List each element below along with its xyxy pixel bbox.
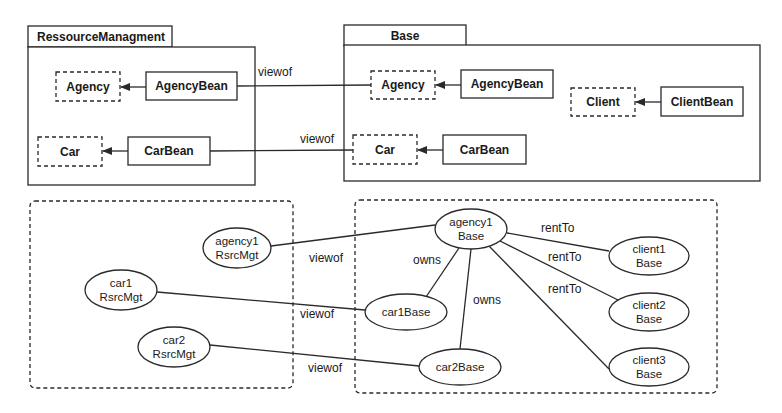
class-label: Client xyxy=(586,95,619,109)
class-client-interface: Client xyxy=(571,88,635,116)
package-title: Base xyxy=(391,29,420,43)
instance-car1-rsrcmgt: car1 RsrcMgt xyxy=(85,270,157,310)
instance-car2-base: car2Base xyxy=(419,349,501,385)
class-agency-interface: Agency xyxy=(56,72,120,101)
svg-text:car2Base: car2Base xyxy=(436,361,485,373)
package-base: Base Agency AgencyBean Client ClientBean… xyxy=(344,25,760,181)
label-rentto: rentTo xyxy=(548,250,582,264)
class-car-interface: Car xyxy=(38,137,102,166)
class-carbean: CarBean xyxy=(128,137,210,165)
instance-car1-base: car1Base xyxy=(365,294,447,330)
svg-text:client2: client2 xyxy=(632,299,665,311)
class-label: CarBean xyxy=(460,143,509,157)
class-carbean: CarBean xyxy=(443,135,526,164)
svg-text:client3: client3 xyxy=(632,354,665,366)
instance-car2-rsrcmgt: car2 RsrcMgt xyxy=(138,327,210,367)
class-label: CarBean xyxy=(144,144,193,158)
label-viewof: viewof xyxy=(309,251,344,265)
svg-text:Base: Base xyxy=(636,368,662,380)
label-viewof: viewof xyxy=(300,132,335,146)
svg-text:RsrcMgt: RsrcMgt xyxy=(100,291,144,303)
instance-client2-base: client2 Base xyxy=(609,293,689,331)
instance-client1-base: client1 Base xyxy=(609,237,689,275)
package-ressource-managment: RessourceManagment Agency AgencyBean Car… xyxy=(28,26,255,185)
class-label: Car xyxy=(60,145,80,159)
class-agencybean: AgencyBean xyxy=(461,70,553,98)
label-owns: owns xyxy=(473,293,501,307)
class-agency-interface: Agency xyxy=(371,71,435,99)
class-label: ClientBean xyxy=(671,95,734,109)
svg-text:car1: car1 xyxy=(110,277,132,289)
diagram-canvas: RessourceManagment Agency AgencyBean Car… xyxy=(0,0,782,413)
label-viewof: viewof xyxy=(258,65,293,79)
svg-text:Base: Base xyxy=(458,230,484,242)
class-agencybean: AgencyBean xyxy=(146,72,237,100)
svg-text:client1: client1 xyxy=(632,243,665,255)
package-title: RessourceManagment xyxy=(37,30,165,44)
label-viewof: viewof xyxy=(300,307,335,321)
instance-client3-base: client3 Base xyxy=(609,348,689,386)
svg-text:Base: Base xyxy=(636,313,662,325)
class-clientbean: ClientBean xyxy=(661,87,743,116)
label-viewof: viewof xyxy=(308,361,343,375)
class-label: Car xyxy=(375,143,395,157)
class-label: Agency xyxy=(66,80,110,94)
class-car-interface: Car xyxy=(353,135,417,164)
class-label: AgencyBean xyxy=(471,77,544,91)
instance-agency1-base: agency1 Base xyxy=(435,209,507,249)
label-owns: owns xyxy=(413,253,441,267)
label-rentto: rentTo xyxy=(548,282,582,296)
svg-text:car1Base: car1Base xyxy=(382,306,431,318)
class-label: AgencyBean xyxy=(155,79,228,93)
svg-text:Base: Base xyxy=(636,257,662,269)
svg-text:RsrcMgt: RsrcMgt xyxy=(216,249,260,261)
svg-text:agency1: agency1 xyxy=(449,216,492,228)
svg-text:car2: car2 xyxy=(163,334,185,346)
instance-agency1-rsrcmgt: agency1 RsrcMgt xyxy=(203,228,271,268)
label-rentto: rentTo xyxy=(541,221,575,235)
class-label: Agency xyxy=(381,78,425,92)
svg-text:agency1: agency1 xyxy=(215,235,258,247)
svg-text:RsrcMgt: RsrcMgt xyxy=(153,348,197,360)
